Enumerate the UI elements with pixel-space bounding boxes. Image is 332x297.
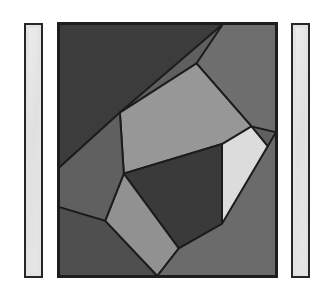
right-bar-inner-surface	[296, 28, 305, 273]
left-bar-inner-surface	[29, 28, 38, 273]
right-vertical-bar	[291, 23, 310, 278]
canvas-stage	[0, 0, 332, 297]
mosaic-svg	[59, 24, 276, 276]
mosaic-panel	[57, 22, 278, 278]
left-vertical-bar	[24, 23, 43, 278]
